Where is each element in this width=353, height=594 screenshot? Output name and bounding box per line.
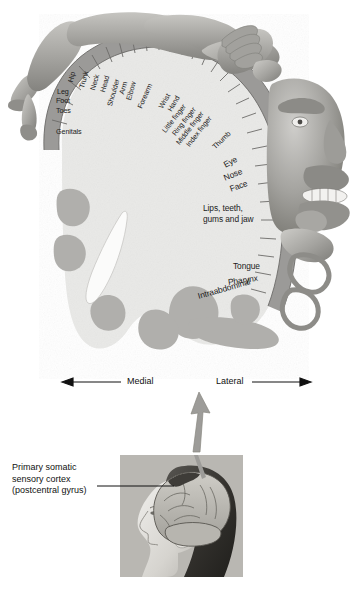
homunculus-intraabdominal-coil: [282, 290, 318, 329]
callout-caption: Primary somatic sensory cortex (postcent…: [12, 462, 87, 497]
orientation-axis: [62, 378, 311, 386]
medial-arrow-head: [62, 378, 73, 386]
head-profile-inset: [120, 455, 243, 577]
cortex-label-lips-line1: Lips, teeth,: [203, 203, 243, 213]
homunculus-pupil: [298, 120, 303, 125]
cortex-label-genitals: Genitals: [56, 128, 82, 136]
cortex-label-lips-line2: gums and jaw: [203, 214, 253, 224]
callout-line-1: Primary somatic: [12, 462, 87, 474]
callout-line-3: (postcentral gyrus): [12, 485, 87, 497]
orientation-label-lateral: Lateral: [216, 376, 244, 386]
cortex-label-tongue: Tongue: [233, 261, 260, 271]
figure-root: Hip Leg Foot Toes Genitals Trunk Neck He…: [0, 0, 353, 594]
gyrus-fold-6: [189, 317, 279, 349]
callout-line-2: sensory cortex: [12, 474, 87, 486]
cortex-label-foot: Foot: [56, 97, 70, 105]
lateral-arrow-head: [300, 378, 311, 386]
gyrus-fold-7: [231, 294, 260, 324]
homunculus-thumb: [253, 60, 282, 82]
inset-svg: [120, 455, 243, 577]
inset-temporal-lobe: [165, 523, 221, 547]
orientation-label-medial: Medial: [127, 376, 154, 386]
inset-to-diagram-arrow: [191, 392, 210, 452]
cortex-label-toes: Toes: [56, 107, 71, 115]
